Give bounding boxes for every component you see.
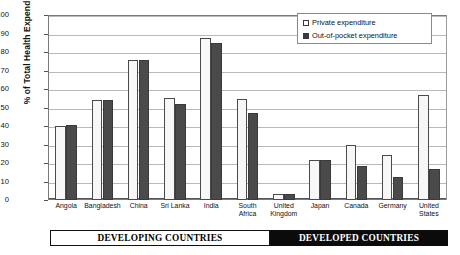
x-tick-india: India — [193, 202, 229, 210]
x-tick-united-kingdom: United Kingdom — [266, 202, 302, 219]
legend-item-out-of-pocket: Out-of-pocket expenditure — [303, 29, 397, 42]
x-tick-germany: Germany — [374, 202, 410, 210]
bar-united-kingdom-out-of-pocket — [284, 194, 295, 200]
x-tick-bangladesh: Bangladesh — [84, 202, 120, 210]
bar-india-out-of-pocket — [211, 43, 222, 200]
y-tick-50: 50 — [0, 104, 9, 112]
y-tick-40: 40 — [0, 122, 9, 130]
y-tick-mark-0 — [44, 200, 48, 201]
y-tick-60: 60 — [0, 85, 9, 93]
bar-south-africa-out-of-pocket — [248, 113, 259, 200]
bar-germany-private — [382, 155, 393, 200]
bar-south-africa-private — [237, 99, 248, 200]
x-tick-angola: Angola — [48, 202, 84, 210]
x-tick-sri-lanka: Sri Lanka — [157, 202, 193, 210]
bar-united-states-private — [418, 95, 429, 200]
y-axis-title: % of Total Health Expenditure — [20, 0, 34, 128]
open-square-icon — [303, 20, 309, 26]
x-tick-united-states: United States — [411, 202, 447, 219]
bar-sri-lanka-private — [164, 98, 175, 200]
legend-label-private: Private expenditure — [312, 18, 376, 27]
y-tick-90: 90 — [0, 30, 9, 38]
bar-angola-private — [55, 126, 66, 200]
bar-japan-out-of-pocket — [320, 160, 331, 200]
bar-china-out-of-pocket — [139, 60, 150, 200]
legend-label-out-of-pocket: Out-of-pocket expenditure — [312, 31, 397, 40]
y-tick-10: 10 — [0, 178, 9, 186]
legend: Private expenditure Out-of-pocket expend… — [297, 13, 432, 44]
x-tick-canada: Canada — [338, 202, 374, 210]
bar-germany-out-of-pocket — [393, 177, 404, 200]
bar-japan-private — [309, 160, 320, 200]
y-tick-0: 0 — [0, 196, 9, 204]
y-tick-70: 70 — [0, 67, 9, 75]
x-tick-china: China — [121, 202, 157, 210]
x-tick-south-africa: South Africa — [229, 202, 265, 219]
bar-united-states-out-of-pocket — [429, 169, 440, 200]
bar-canada-out-of-pocket — [357, 166, 368, 200]
banner-developing-countries: DEVELOPING COUNTRIES — [50, 230, 270, 246]
filled-square-icon — [303, 33, 309, 39]
y-tick-100: 100 — [0, 11, 9, 19]
bar-india-private — [200, 38, 211, 200]
x-axis-tick-labels: AngolaBangladeshChinaSri LankaIndiaSouth… — [48, 202, 447, 224]
bar-sri-lanka-out-of-pocket — [175, 104, 186, 200]
banner-developed-countries: DEVELOPED COUNTRIES — [270, 230, 448, 246]
bar-bangladesh-out-of-pocket — [103, 100, 114, 200]
bar-canada-private — [346, 145, 357, 200]
y-tick-30: 30 — [0, 141, 9, 149]
y-tick-80: 80 — [0, 48, 9, 56]
legend-item-private: Private expenditure — [303, 16, 376, 29]
y-tick-20: 20 — [0, 159, 9, 167]
bar-chart: % of Total Health Expenditure 0102030405… — [0, 0, 460, 255]
bar-bangladesh-private — [92, 100, 103, 200]
bar-china-private — [128, 60, 139, 200]
x-tick-japan: Japan — [302, 202, 338, 210]
bar-angola-out-of-pocket — [66, 125, 77, 200]
bar-united-kingdom-private — [273, 194, 284, 200]
